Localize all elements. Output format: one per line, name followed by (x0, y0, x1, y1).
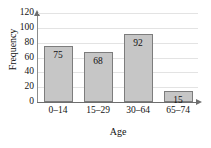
y-tick-label: 100 (4, 23, 34, 33)
bar-value-label: 15 (165, 95, 192, 105)
y-tick-label: 120 (4, 8, 34, 18)
y-tick-label: 40 (4, 67, 34, 77)
y-axis-tick-labels: 120 100 80 60 40 20 0 (0, 13, 34, 102)
bar: 15 (164, 91, 193, 102)
bar: 75 (44, 46, 73, 102)
y-tick-label: 20 (4, 82, 34, 92)
gridline (38, 28, 198, 29)
bar: 68 (84, 52, 113, 102)
x-tick-label: 30–64 (118, 105, 158, 116)
gridline (38, 43, 198, 44)
bar-value-label: 75 (45, 50, 72, 60)
x-tick-label: 65–74 (158, 105, 198, 116)
bar-value-label: 68 (85, 56, 112, 66)
y-tick-label: 80 (4, 38, 34, 48)
bar: 92 (124, 34, 153, 102)
y-tick-label: 0 (4, 97, 34, 107)
bar-chart: Frequency 120 100 80 60 40 20 0 75 68 92… (0, 0, 211, 148)
x-axis-title: Age (38, 126, 198, 137)
gridline (38, 13, 198, 14)
plot-area: 75 68 92 15 (38, 13, 198, 102)
bar-value-label: 92 (125, 38, 152, 48)
y-tick-label: 60 (4, 53, 34, 63)
x-tick-label: 15–29 (78, 105, 118, 116)
x-tick-label: 0–14 (38, 105, 78, 116)
